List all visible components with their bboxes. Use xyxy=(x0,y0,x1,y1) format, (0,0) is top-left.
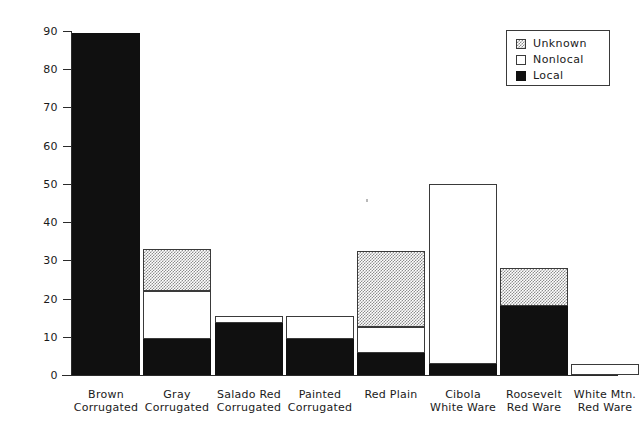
bar-segment-local xyxy=(72,33,140,375)
y-tick-mark xyxy=(63,222,71,223)
legend-item-nonlocal[interactable]: Nonlocal xyxy=(516,52,609,67)
bar-segment-unknown xyxy=(143,249,211,291)
bar-segment-nonlocal xyxy=(571,364,639,375)
y-tick-mark xyxy=(63,107,71,108)
bar-segment-local xyxy=(143,339,211,375)
y-tick-mark xyxy=(63,146,71,147)
bar-cibola-white-ware[interactable] xyxy=(429,184,497,375)
bar-segment-local xyxy=(429,364,497,375)
y-tick-mark xyxy=(63,31,71,32)
legend-label-unknown: Unknown xyxy=(533,38,587,49)
bar-gray-corrugated[interactable] xyxy=(143,249,211,375)
bar-white-mtn-red-ware[interactable] xyxy=(571,364,639,375)
legend-item-unknown[interactable]: Unknown xyxy=(516,36,609,51)
legend: Unknown Nonlocal Local xyxy=(506,30,610,86)
bar-segment-nonlocal xyxy=(215,316,283,324)
page-speck xyxy=(366,199,368,202)
bar-segment-local xyxy=(500,306,568,375)
x-axis-line xyxy=(62,375,618,376)
x-axis-label-line: Red Ware xyxy=(557,401,643,414)
stipple-swatch-icon xyxy=(516,39,526,49)
y-tick-label: 40 xyxy=(34,217,58,228)
y-tick-mark xyxy=(63,337,71,338)
y-tick-label: 20 xyxy=(34,294,58,305)
legend-item-local[interactable]: Local xyxy=(516,68,609,83)
y-tick-mark xyxy=(63,69,71,70)
black-swatch-icon xyxy=(516,71,526,81)
y-tick-label: 0 xyxy=(34,370,58,381)
bar-brown-corrugated[interactable] xyxy=(72,33,140,375)
y-tick-label: 50 xyxy=(34,179,58,190)
y-tick-mark xyxy=(63,375,71,376)
x-axis-label: White Mtn.Red Ware xyxy=(557,388,643,414)
y-tick-label: 80 xyxy=(34,64,58,75)
bar-painted-corrugated[interactable] xyxy=(286,316,354,375)
x-axis-label-line: Corrugated xyxy=(272,401,368,414)
y-tick-mark xyxy=(63,184,71,185)
bar-roosevelt-red-ware[interactable] xyxy=(500,268,568,375)
y-tick-label: 90 xyxy=(34,26,58,37)
y-tick-label: 70 xyxy=(34,102,58,113)
y-tick-label: 60 xyxy=(34,141,58,152)
bar-segment-local xyxy=(215,323,283,375)
bar-segment-local xyxy=(357,353,425,375)
y-tick-label: 10 xyxy=(34,332,58,343)
legend-label-local: Local xyxy=(533,70,564,81)
y-tick-label: 30 xyxy=(34,255,58,266)
bar-segment-local xyxy=(286,339,354,375)
y-tick-mark xyxy=(63,260,71,261)
bar-red-plain[interactable] xyxy=(357,251,425,375)
bar-segment-nonlocal xyxy=(286,316,354,339)
bar-segment-nonlocal xyxy=(357,327,425,353)
bar-segment-nonlocal xyxy=(429,184,497,364)
legend-label-nonlocal: Nonlocal xyxy=(533,54,584,65)
white-swatch-icon xyxy=(516,55,526,65)
bar-segment-unknown xyxy=(500,268,568,306)
bar-segment-unknown xyxy=(357,251,425,327)
bar-segment-nonlocal xyxy=(143,291,211,339)
x-axis-label-line: White Mtn. xyxy=(557,388,643,401)
y-tick-mark xyxy=(63,299,71,300)
bar-salado-red-corrugated[interactable] xyxy=(215,316,283,375)
